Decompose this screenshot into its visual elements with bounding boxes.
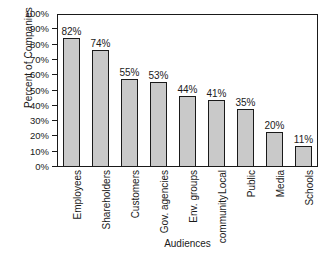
x-axis-tick-label: Localcommunity bbox=[202, 167, 231, 237]
x-axis-tick-label-line: Shareholders bbox=[101, 170, 112, 229]
bar-rect[interactable] bbox=[92, 50, 109, 167]
y-axis-tick-label: 40% bbox=[30, 100, 49, 111]
y-axis-tick-label: 50% bbox=[30, 85, 49, 96]
x-axis-tick-label: Media bbox=[260, 167, 289, 237]
bar-value-label: 53% bbox=[142, 70, 175, 81]
bar-rect[interactable] bbox=[266, 132, 283, 167]
x-axis-tick-label-line: Employees bbox=[72, 170, 83, 219]
x-axis-tick-label-line: Customers bbox=[130, 170, 141, 218]
y-axis-tick-label: 10% bbox=[30, 146, 49, 157]
bar-rect[interactable] bbox=[121, 79, 138, 167]
x-axis-tick-label-line: Env. groups bbox=[188, 170, 199, 223]
x-axis-tick-label-line: Schools bbox=[304, 170, 315, 206]
x-axis-tick-label-line: Public bbox=[246, 170, 257, 197]
x-axis-tick-label-line: Local bbox=[217, 170, 228, 194]
x-axis-tick-label: Schools bbox=[289, 167, 318, 237]
bar-item[interactable]: 82% bbox=[63, 14, 80, 167]
bar-item[interactable]: 55% bbox=[121, 14, 138, 167]
x-axis-tick-label: Env. groups bbox=[173, 167, 202, 237]
bar-series: 82%74%55%53%44%41%35%20%11% bbox=[57, 14, 318, 167]
bar-rect[interactable] bbox=[179, 96, 196, 167]
bar-rect[interactable] bbox=[63, 38, 80, 167]
bar-item[interactable]: 11% bbox=[295, 14, 312, 167]
bar-item[interactable]: 53% bbox=[150, 14, 167, 167]
bar-value-label: 44% bbox=[171, 84, 204, 95]
y-axis-tick-label: 20% bbox=[30, 130, 49, 141]
bar-value-label: 20% bbox=[258, 120, 291, 131]
y-axis-tick-label: 60% bbox=[30, 69, 49, 80]
y-axis-tick-label: 70% bbox=[30, 54, 49, 65]
bar-value-label: 41% bbox=[200, 88, 233, 99]
x-axis-tick-label-line: Gov. agencies bbox=[159, 170, 170, 233]
x-axis-title: Audiences bbox=[57, 238, 318, 249]
bar-item[interactable]: 44% bbox=[179, 14, 196, 167]
y-axis-tick-label: 0% bbox=[35, 161, 49, 172]
bar-rect[interactable] bbox=[208, 100, 225, 167]
x-axis-tick-list: EmployeesShareholdersCustomersGov. agenc… bbox=[57, 167, 318, 237]
bar-rect[interactable] bbox=[295, 146, 312, 167]
bar-value-label: 82% bbox=[55, 26, 88, 37]
bar-rect[interactable] bbox=[150, 82, 167, 167]
bar-item[interactable]: 74% bbox=[92, 14, 109, 167]
x-axis-tick-label: Shareholders bbox=[86, 167, 115, 237]
bar-rect[interactable] bbox=[237, 109, 254, 167]
bar-item[interactable]: 35% bbox=[237, 14, 254, 167]
bar-value-label: 11% bbox=[287, 134, 320, 145]
x-axis-tick-label-line: Media bbox=[275, 170, 286, 197]
bar-value-label: 74% bbox=[84, 38, 117, 49]
y-axis-tick-label: 80% bbox=[30, 39, 49, 50]
bar-chart-figure: Percent of Companies 100%90%80%70%60%50%… bbox=[0, 0, 332, 260]
y-axis-tick-label: 90% bbox=[30, 23, 49, 34]
x-axis-tick-label: Gov. agencies bbox=[144, 167, 173, 237]
y-axis-tick-label: 30% bbox=[30, 115, 49, 126]
y-axis-tick-label: 100% bbox=[25, 8, 49, 19]
x-axis-tick-label-line: community bbox=[217, 195, 228, 243]
bar-value-label: 55% bbox=[113, 67, 146, 78]
bar-item[interactable]: 20% bbox=[266, 14, 283, 167]
y-axis-tick-list: 100%90%80%70%60%50%40%30%20%10%0% bbox=[0, 0, 57, 181]
x-axis-tick-label: Public bbox=[231, 167, 260, 237]
x-axis-tick-label: Employees bbox=[57, 167, 86, 237]
bar-item[interactable]: 41% bbox=[208, 14, 225, 167]
bar-value-label: 35% bbox=[229, 97, 262, 108]
x-axis-tick-label: Customers bbox=[115, 167, 144, 237]
